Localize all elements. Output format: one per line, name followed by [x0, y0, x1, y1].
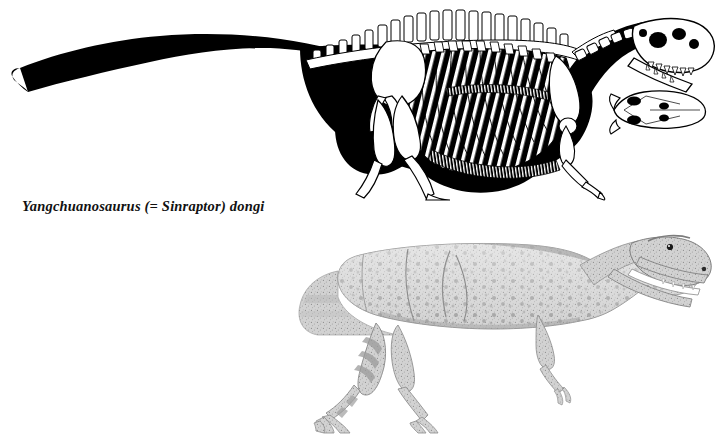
- forelimb: [559, 126, 604, 200]
- life-restoration-figure: [280, 225, 723, 436]
- skeletal-reconstruction-svg: [0, 0, 723, 200]
- dorsal-premaxilla-right: [610, 120, 620, 134]
- pes-far: [410, 417, 438, 433]
- orbit: [672, 28, 686, 40]
- skull-lateral: [628, 19, 714, 92]
- manus-claws: [554, 387, 571, 405]
- hind-limb-near: [314, 323, 386, 433]
- shank-far: [398, 387, 428, 421]
- forelimb-lower: [540, 365, 564, 393]
- dorsal-fenestra-left: [627, 97, 641, 106]
- pes-near: [314, 415, 350, 433]
- naris: [639, 29, 647, 37]
- eye: [667, 244, 673, 250]
- dorsal-skull-inset: [610, 91, 706, 134]
- hind-limb-far: [391, 325, 438, 433]
- thigh-far: [391, 325, 414, 391]
- figure-caption: Yangchuanosaurus (= Sinraptor) dongi: [22, 198, 265, 215]
- dinosaur-plate: Yangchuanosaurus (= Sinraptor) dongi: [0, 0, 723, 436]
- infratemporal-fenestra: [689, 39, 699, 49]
- antorbital-fenestra: [649, 32, 667, 48]
- metatarsus-far: [426, 194, 450, 200]
- dorsal-fenestra-right: [627, 116, 641, 125]
- forelimb: [536, 315, 571, 405]
- eye-highlight: [668, 245, 670, 247]
- skeletal-reconstruction-figure: [0, 0, 723, 200]
- nostril: [702, 267, 706, 271]
- dorsal-orbit-left: [659, 103, 669, 110]
- life-restoration-svg: [280, 225, 723, 436]
- dorsal-cranium: [614, 91, 706, 128]
